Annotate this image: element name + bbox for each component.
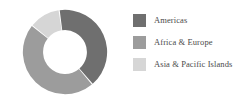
donut-chart-svg <box>22 9 108 95</box>
legend-item-asia-pacific-islands[interactable]: Asia & Pacific Islands <box>133 54 232 74</box>
donut-chart-figure: Americas Africa & Europe Asia & Pacific … <box>0 0 252 103</box>
donut-chart-plot <box>22 9 108 95</box>
legend-label-africa-europe: Africa & Europe <box>154 38 213 47</box>
donut-slice-group <box>23 10 107 94</box>
legend-swatch-americas <box>133 14 146 27</box>
legend-label-asia-pacific-islands: Asia & Pacific Islands <box>154 60 232 69</box>
donut-slice[interactable] <box>60 10 107 84</box>
legend-item-americas[interactable]: Americas <box>133 10 187 30</box>
legend-swatch-africa-europe <box>133 36 146 49</box>
legend-item-africa-europe[interactable]: Africa & Europe <box>133 32 213 52</box>
chart-legend: Americas Africa & Europe Asia & Pacific … <box>133 8 251 96</box>
legend-label-americas: Americas <box>154 16 187 25</box>
legend-swatch-asia-pacific-islands <box>133 58 146 71</box>
